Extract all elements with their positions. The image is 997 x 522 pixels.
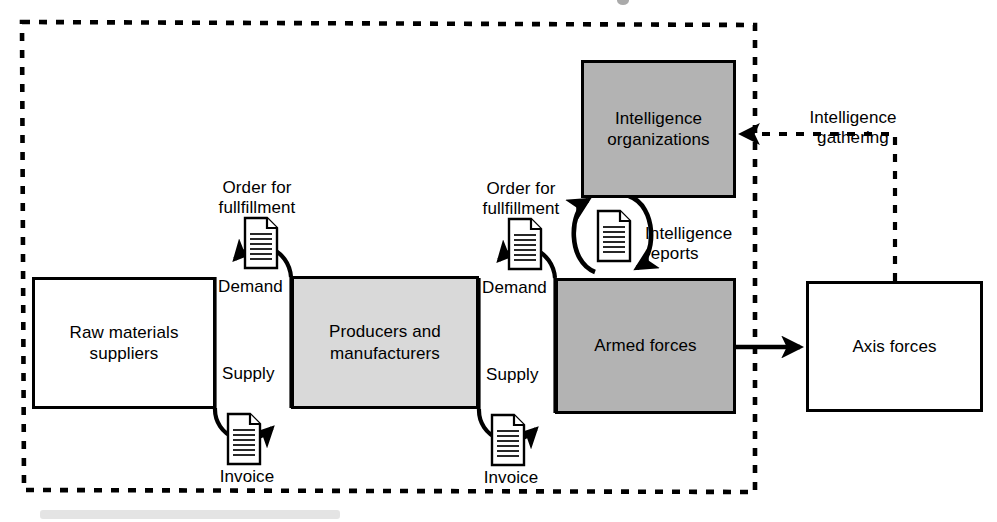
node-intelligence-organizations[interactable]: Intelligence organizations	[581, 60, 736, 198]
edge-label-invoice-2: Invoice	[461, 468, 561, 488]
node-label: Producers and manufacturers	[294, 321, 476, 364]
edge-label-supply-1: Supply	[222, 364, 294, 384]
edge-label-invoice-1: Invoice	[197, 467, 297, 487]
edge-label-demand-2: Demand	[482, 278, 562, 298]
node-label: Axis forces	[846, 336, 942, 357]
node-label: Raw materials suppliers	[35, 322, 213, 365]
edge-label-intelligence-reports: Intelligence reports	[645, 224, 765, 264]
node-producers-and-manufacturers[interactable]: Producers and manufacturers	[291, 276, 479, 409]
node-axis-forces[interactable]: Axis forces	[806, 281, 983, 412]
document-icon	[598, 211, 630, 261]
edge-label-intelligence-gathering: Intelligence gathering	[788, 108, 918, 148]
document-icon	[509, 219, 541, 269]
edge-label-order-for-fullfillment-1: Order for fullfillment	[192, 178, 322, 218]
node-armed-forces[interactable]: Armed forces	[555, 278, 736, 414]
document-icon	[492, 415, 524, 465]
document-icon	[228, 414, 260, 464]
node-raw-materials-suppliers[interactable]: Raw materials suppliers	[32, 277, 216, 409]
edge-label-demand-1: Demand	[218, 277, 298, 297]
edge-label-order-for-fullfillment-2: Order for fullfillment	[456, 179, 586, 219]
diagram-vector-layer	[0, 0, 997, 522]
edge-label-supply-2: Supply	[486, 365, 558, 385]
diagram-canvas: Raw materials suppliers Producers and ma…	[0, 0, 997, 522]
document-icon	[245, 218, 277, 268]
node-label: Intelligence organizations	[584, 108, 733, 151]
node-label: Armed forces	[588, 335, 702, 356]
